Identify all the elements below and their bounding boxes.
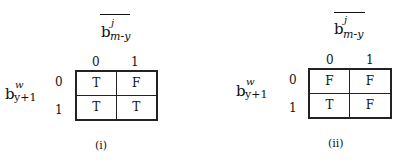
- column-variable-overline: [100, 14, 130, 15]
- row-variable-subscript: y+1: [14, 92, 36, 103]
- column-header-1: 1: [131, 56, 139, 68]
- row-header-1: 1: [55, 104, 63, 116]
- row-header-0: 0: [55, 76, 63, 88]
- karnaugh-grid: T F T T: [75, 70, 158, 121]
- cell-r0-c0: F: [310, 70, 350, 94]
- row-header-1: 1: [289, 102, 297, 114]
- row-variable-superscript: w: [15, 80, 24, 90]
- cell-r0-c1: F: [350, 70, 390, 94]
- cell-r1-c1: T: [117, 96, 157, 120]
- caption: (ii): [328, 138, 344, 149]
- row-header-0: 0: [289, 74, 297, 86]
- column-header-1: 1: [366, 54, 374, 66]
- column-variable-subscript: m-y: [110, 31, 130, 42]
- cell-r0-c1: F: [117, 72, 157, 96]
- column-variable-subscript: m-y: [343, 29, 363, 40]
- cell-r1-c0: T: [310, 94, 350, 118]
- karnaugh-grid: F F T F: [308, 68, 392, 119]
- cell-r1-c1: F: [350, 94, 390, 118]
- column-variable-superscript: j: [344, 15, 347, 25]
- column-header-0: 0: [92, 56, 100, 68]
- row-variable-subscript: y+1: [245, 89, 267, 100]
- row-variable-superscript: w: [246, 77, 255, 87]
- cell-r1-c0: T: [77, 96, 117, 120]
- column-variable-overline: [334, 12, 365, 13]
- cell-r0-c0: T: [77, 72, 117, 96]
- column-variable-superscript: j: [111, 18, 114, 28]
- column-header-0: 0: [326, 54, 334, 66]
- caption: (i): [95, 140, 107, 151]
